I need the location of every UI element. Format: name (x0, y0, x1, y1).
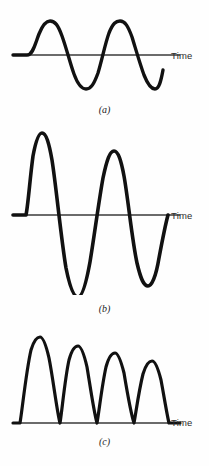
panel-caption-a: (a) (0, 104, 209, 115)
panel-caption-c: (c) (0, 436, 209, 447)
panel-caption-b: (b) (0, 303, 209, 314)
waveform-figure: Time (a) Time (b) Time (c) (0, 0, 209, 466)
time-axis-label-a: Time (171, 50, 193, 61)
waveform-panel-b (0, 125, 209, 320)
time-axis-label-b: Time (171, 210, 193, 221)
damped-sine-wave-curve-b (13, 133, 168, 295)
waveform-chart-c (0, 320, 209, 430)
rectified-pulses-curve-c (13, 337, 180, 423)
time-axis-label-c: Time (171, 417, 193, 428)
